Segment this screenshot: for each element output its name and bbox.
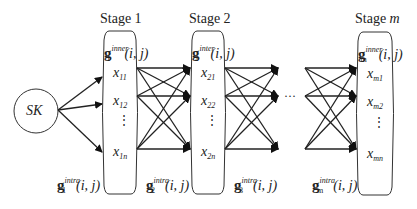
stage-title-index: m — [390, 11, 400, 26]
intra-label-m: gintram(i, j) — [312, 177, 357, 193]
stage-m-title: Stage m — [355, 12, 400, 26]
node-xm1: xm1 — [367, 67, 383, 81]
stage-title-index: 2 — [224, 11, 231, 26]
vertical-ellipsis: ⋮ — [118, 118, 130, 123]
superscript: inner — [366, 45, 383, 54]
superscript: inter — [200, 44, 215, 53]
superscript: inner — [112, 44, 129, 53]
stage-1-title: Stage 1 — [100, 12, 142, 26]
intra-label-2: gintra2(i, j) — [146, 177, 189, 193]
source-node-label: SK — [26, 104, 42, 118]
source-arrows — [58, 77, 102, 152]
intra-label-3: gintra3(i, j) — [234, 177, 277, 193]
vertical-ellipsis: ⋮ — [373, 120, 385, 125]
subscript: 2 — [195, 54, 199, 63]
node-xm2: xm2 — [367, 95, 383, 109]
node-xmn: xmn — [367, 147, 383, 161]
stage-title-prefix: Stage — [355, 11, 390, 26]
vertical-ellipsis: ⋮ — [206, 118, 218, 123]
node-x21: x21 — [201, 66, 215, 80]
stage-1-inner-label: ginner1(i, j) — [104, 45, 149, 61]
node-x11: x11 — [113, 66, 127, 80]
args: (i, j) — [379, 47, 403, 62]
connections-stage2-next — [225, 68, 278, 149]
subscript: 1 — [106, 54, 110, 63]
stage-title-prefix: Stage — [189, 11, 224, 26]
node-x2n: x2n — [201, 145, 215, 159]
intra-label-1: gintra1(i, j) — [57, 177, 100, 193]
node-x22: x22 — [201, 94, 215, 108]
stage-2-title: Stage 2 — [189, 12, 231, 26]
node-x12: x12 — [113, 94, 127, 108]
horizontal-ellipsis: ··· — [284, 90, 296, 102]
stage-title-prefix: Stage — [100, 11, 135, 26]
stage-m-inner-label: ginnerm(i, j) — [358, 46, 403, 62]
args: (i, j) — [124, 46, 148, 61]
stage-2-inter-label: ginter2(i, j) — [192, 45, 235, 61]
stage-title-index: 1 — [135, 11, 142, 26]
subscript: m — [360, 55, 366, 64]
connections-stage1-stage2 — [137, 68, 190, 149]
connections-prev-stage-m — [305, 68, 356, 149]
node-x1n: x1n — [113, 145, 127, 159]
